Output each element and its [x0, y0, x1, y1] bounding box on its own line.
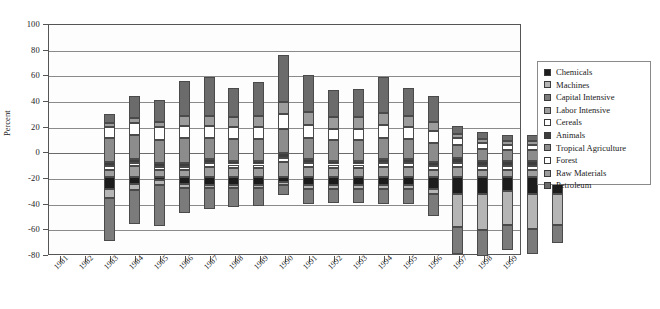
bar-segment — [179, 163, 190, 167]
bar-segment — [303, 125, 314, 138]
bar-column[interactable] — [129, 49, 140, 280]
bar-segment — [253, 82, 264, 115]
bar-segment — [328, 90, 339, 117]
legend-item[interactable]: Animals — [544, 129, 645, 142]
bar-column[interactable] — [228, 49, 239, 280]
bar-column[interactable] — [353, 49, 364, 280]
bar-segment — [154, 163, 165, 167]
bar-segment — [428, 96, 439, 122]
bar-segment — [328, 165, 339, 169]
legend-item[interactable]: Forest — [544, 154, 645, 167]
bar-segment — [303, 163, 314, 167]
bar-segment — [253, 165, 264, 169]
bar-segment — [204, 159, 215, 163]
legend-item[interactable]: Petroleum — [544, 179, 645, 192]
bar-segment — [328, 168, 339, 177]
bar-segment — [378, 138, 389, 160]
bar-segment — [253, 161, 264, 165]
bar-column[interactable] — [452, 49, 463, 280]
bar-column[interactable] — [477, 49, 488, 280]
bar-column[interactable] — [278, 49, 289, 280]
bar-segment — [502, 141, 513, 145]
legend-label: Animals — [556, 131, 585, 140]
bar-segment — [104, 127, 115, 137]
plot-area — [48, 24, 521, 255]
bar-segment — [353, 117, 364, 129]
bar-segment — [154, 167, 165, 170]
bar-segment — [204, 163, 215, 167]
bar-segment — [477, 132, 488, 138]
bar-segment — [452, 126, 463, 134]
bar-column[interactable] — [502, 49, 513, 280]
bar-segment — [403, 159, 414, 163]
bar-segment — [303, 75, 314, 112]
bar-segment — [253, 139, 264, 161]
y-tick-label: -60 — [10, 224, 40, 234]
y-tick-mark — [43, 255, 48, 256]
bar-segment — [228, 127, 239, 139]
legend-label: Forest — [556, 156, 577, 165]
bar-segment — [428, 177, 439, 189]
bar-segment — [228, 165, 239, 169]
bar-column[interactable] — [403, 49, 414, 280]
bar-segment — [502, 150, 513, 160]
legend-item[interactable]: Cereals — [544, 116, 645, 129]
bar-column[interactable] — [378, 49, 389, 280]
x-tick-label: 1981 — [52, 253, 70, 271]
bar-segment — [303, 138, 314, 160]
bar-segment — [428, 143, 439, 162]
legend-item[interactable]: Raw Materials — [544, 167, 645, 180]
bar-segment — [278, 158, 289, 162]
bar-column[interactable] — [253, 49, 264, 280]
bar-segment — [502, 225, 513, 251]
bar-column[interactable] — [154, 49, 165, 280]
bar-segment — [228, 188, 239, 207]
bar-segment — [179, 188, 190, 214]
legend-item[interactable]: Chemicals — [544, 66, 645, 79]
bar-segment — [204, 167, 215, 177]
legend-label: Machines — [556, 81, 589, 90]
legend-label: Petroleum — [556, 181, 591, 190]
legend-item[interactable]: Machines — [544, 79, 645, 92]
bar-segment — [502, 191, 513, 224]
legend-item[interactable]: Labor Intensive — [544, 104, 645, 117]
bar-segment — [278, 129, 289, 153]
bar-segment — [204, 116, 215, 126]
y-tick-label: -80 — [10, 250, 40, 260]
bar-segment — [378, 167, 389, 177]
bar-column[interactable] — [328, 49, 339, 280]
bar-segment — [378, 189, 389, 204]
bar-segment — [502, 145, 513, 150]
bar-column[interactable] — [303, 49, 314, 280]
legend-label: Tropical Agriculture — [556, 144, 626, 153]
legend-swatch-icon — [544, 170, 551, 177]
bar-segment — [104, 170, 115, 178]
bar-column[interactable] — [179, 49, 190, 280]
bar-segment — [353, 161, 364, 165]
bar-segment — [253, 168, 264, 177]
bar-segment — [428, 170, 439, 178]
y-tick-label: -40 — [10, 199, 40, 209]
legend-label: Labor Intensive — [556, 106, 610, 115]
bar-column[interactable] — [104, 49, 115, 280]
bar-segment — [204, 138, 215, 160]
legend-label: Cereals — [556, 118, 582, 127]
bar-segment — [278, 185, 289, 195]
legend-swatch-icon — [544, 132, 551, 139]
legend-label: Raw Materials — [556, 169, 606, 178]
y-tick-label: 20 — [10, 122, 40, 132]
bar-segment — [303, 159, 314, 163]
legend-item[interactable]: Tropical Agriculture — [544, 142, 645, 155]
bar-segment — [452, 177, 463, 194]
bar-segment — [527, 194, 538, 229]
y-tick-label: 80 — [10, 45, 40, 55]
bar-segment — [527, 229, 538, 255]
bar-segment — [204, 188, 215, 210]
bar-segment — [378, 77, 389, 113]
bar-segment — [154, 140, 165, 163]
bar-column[interactable] — [428, 49, 439, 280]
bar-segment — [328, 129, 339, 141]
bar-column[interactable] — [204, 49, 215, 280]
bar-segment — [353, 168, 364, 177]
legend-item[interactable]: Capital Intensive — [544, 91, 645, 104]
